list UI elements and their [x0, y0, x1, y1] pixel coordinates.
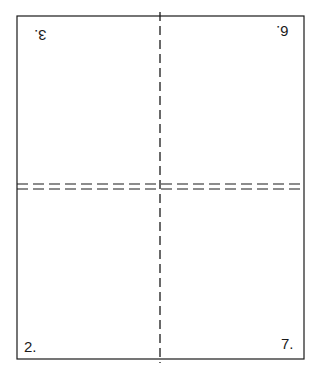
- panel-top-left: 3.: [34, 28, 47, 43]
- page-number-label: 7.: [281, 335, 294, 352]
- page-number-label: 2.: [24, 338, 37, 355]
- panel-top-right: 6.: [276, 24, 289, 39]
- panel-bottom-left: 2.: [24, 339, 37, 354]
- fold-diagram: [0, 0, 320, 378]
- page-number-label: 3.: [34, 28, 47, 43]
- panel-bottom-right: 7.: [281, 336, 294, 351]
- page-number-label: 6.: [276, 24, 289, 39]
